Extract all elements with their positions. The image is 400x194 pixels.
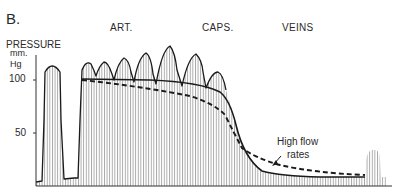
annotation-high-flow-line1: High flow xyxy=(277,136,318,147)
annotation-high-flow-line2: rates xyxy=(287,149,309,160)
pressure-diagram xyxy=(0,0,400,194)
hatched-area xyxy=(36,46,386,186)
